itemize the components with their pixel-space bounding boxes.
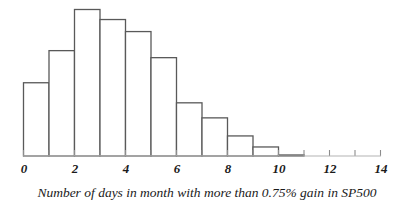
x-axis-tick-label: 10: [273, 162, 286, 175]
x-axis-tick-label: 14: [375, 162, 388, 175]
histogram-bar: [75, 10, 101, 157]
x-axis-tick-label: 2: [72, 162, 79, 175]
histogram-bar: [177, 103, 203, 156]
x-axis-caption: Number of days in month with more than 0…: [0, 186, 414, 200]
x-axis-tick-label: 0: [21, 162, 28, 175]
histogram-bar: [253, 147, 279, 156]
histogram-figure: 02468101214 Number of days in month with…: [0, 0, 414, 208]
histogram-bar: [228, 136, 254, 156]
x-axis-tick-label: 12: [324, 162, 337, 175]
histogram-bar: [49, 51, 75, 156]
histogram-bars: [24, 10, 305, 157]
x-axis-tick-label: 4: [123, 162, 130, 175]
histogram-plot: [0, 0, 414, 208]
histogram-bar: [126, 32, 152, 156]
histogram-bar: [151, 58, 177, 156]
x-axis-tick-label: 8: [225, 162, 232, 175]
histogram-bar: [24, 83, 50, 156]
x-axis-tick-label: 6: [174, 162, 181, 175]
histogram-bar: [202, 118, 228, 156]
histogram-bar: [100, 20, 126, 156]
